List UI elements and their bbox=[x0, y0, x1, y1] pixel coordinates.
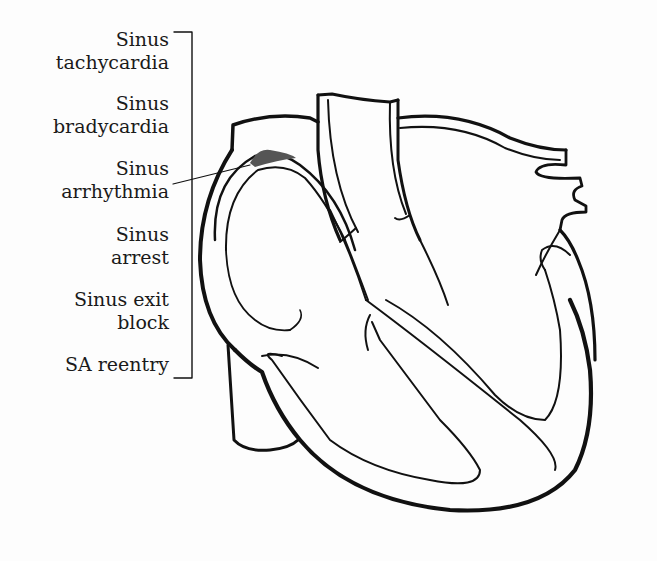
left-atrium-inner-right bbox=[536, 230, 560, 275]
papillary-flap-mid bbox=[365, 315, 370, 350]
heart-diagram: Sinus tachycardia Sinus bradycardia Sinu… bbox=[0, 0, 657, 561]
bracket bbox=[174, 32, 192, 378]
aorta-top bbox=[318, 94, 398, 102]
inferior-vena-cava bbox=[228, 345, 298, 450]
aortic-valve-right bbox=[395, 215, 410, 219]
right-atrium-cavity-lower bbox=[226, 250, 290, 330]
right-ventricle-outer bbox=[235, 300, 591, 511]
aortic-valve-tip bbox=[420, 240, 448, 305]
right-atrium-septum-wall bbox=[345, 240, 368, 300]
left-atrium-top bbox=[398, 116, 566, 150]
tricuspid-flap bbox=[290, 310, 301, 330]
left-atrium-inner-top bbox=[400, 127, 560, 160]
left-ventricle-inner bbox=[386, 270, 561, 420]
aorta-left-inner bbox=[328, 100, 358, 232]
pulmonary-vein-lower bbox=[560, 230, 595, 360]
pulmonary-vein-upper bbox=[536, 150, 586, 230]
heart-illustration bbox=[0, 0, 657, 561]
septum-right bbox=[366, 300, 556, 470]
superior-vena-cava bbox=[232, 116, 318, 150]
sa-node-highlight bbox=[250, 150, 296, 167]
papillary-flap-left bbox=[262, 355, 318, 369]
